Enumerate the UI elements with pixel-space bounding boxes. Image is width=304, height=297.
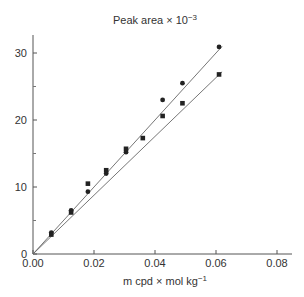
square-marker (160, 114, 165, 119)
x-tick-label: 0.06 (205, 257, 226, 269)
squares-fit-line (33, 72, 222, 254)
square-marker (104, 168, 109, 173)
square-marker (86, 181, 91, 186)
square-marker (69, 210, 74, 215)
scatter-chart: 0.000.020.040.060.080102030Peak area × 1… (0, 0, 304, 297)
circle-marker (217, 45, 222, 50)
x-tick-label: 0.08 (266, 257, 287, 269)
x-tick-label: 0.04 (144, 257, 165, 269)
x-axis-label: m cpd × mol kg−1 (123, 274, 208, 287)
circle-marker (86, 189, 91, 194)
chart-title: Peak area × 10−3 (113, 13, 198, 26)
y-tick-label: 20 (15, 114, 27, 126)
square-marker (49, 232, 54, 237)
chart-container: 0.000.020.040.060.080102030Peak area × 1… (0, 0, 304, 297)
y-tick-label: 30 (15, 47, 27, 59)
x-tick-label: 0.02 (83, 257, 104, 269)
square-marker (217, 72, 222, 77)
y-tick-label: 0 (21, 248, 27, 260)
square-marker (141, 136, 146, 141)
square-marker (124, 147, 129, 152)
circle-marker (160, 98, 165, 103)
square-marker (180, 101, 185, 106)
y-tick-label: 10 (15, 181, 27, 193)
circle-marker (180, 81, 185, 86)
